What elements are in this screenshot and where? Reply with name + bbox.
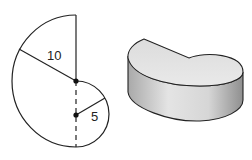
- small-radius-label: 5: [91, 109, 98, 124]
- diagram-canvas: 10 5: [0, 0, 252, 160]
- large-center-dot: [73, 78, 78, 83]
- large-radius-label: 10: [47, 48, 61, 63]
- small-center-dot: [73, 112, 78, 117]
- flat-shape: [12, 15, 109, 147]
- large-arc: [12, 15, 76, 147]
- solid-shape: [128, 39, 243, 121]
